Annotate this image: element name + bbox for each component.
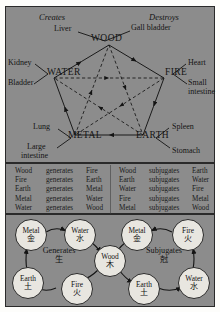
table-row: Earth subjugates Water (119, 175, 220, 184)
cell-subject: Wood (119, 167, 149, 175)
cell-subject: Metal (119, 204, 149, 212)
node-label-cn: 火 (73, 289, 81, 297)
node-label-cn: 金 (27, 235, 35, 243)
cycles-panel: Metal 金 Water 水 Fire 火 Earth 土 Wood 木 Me… (5, 214, 215, 307)
cell-subject: Water (119, 185, 149, 193)
node-label-cn: 木 (106, 261, 114, 269)
table-row: Water generates Wood (15, 204, 114, 213)
organ-label-large-intestine-line2: intestine (21, 152, 48, 160)
cycle-title-generates: Generates 生 (30, 246, 88, 264)
cell-verb: subjugates (149, 204, 192, 212)
table-row: Metal subjugates Wood (119, 204, 220, 213)
cell-verb: subjugates (149, 176, 192, 184)
cell-object: Earth (192, 167, 220, 175)
cell-subject: Fire (15, 176, 46, 184)
organ-label-gall-bladder: Gall bladder (131, 24, 171, 32)
wu-xing-figure: Creates Destroys (0, 0, 220, 312)
organ-label-heart: Heart (188, 59, 206, 67)
element-label-water: WATER (47, 68, 81, 78)
organ-label-liver: Liver (54, 25, 71, 33)
element-label-fire: FIRE (165, 68, 187, 78)
table-row: Earth generates Metal (15, 185, 114, 194)
organ-label-stomach: Stomach (172, 147, 200, 155)
node-label-cn: 水 (76, 235, 84, 243)
cell-verb: generates (46, 176, 86, 184)
cell-object: Fire (86, 167, 114, 175)
cell-subject: Earth (15, 185, 46, 193)
cycle-title-subjugates: Subjugates 尅 (132, 246, 196, 264)
cell-verb: generates (46, 167, 86, 175)
cell-object: Earth (86, 176, 114, 184)
subjugates-table: Wood subjugates Earth Earth subjugates W… (119, 166, 220, 213)
node-label-cn: 土 (140, 289, 148, 297)
organ-label-small-intestine-line2: intestine (188, 88, 215, 96)
element-label-metal: METAL (68, 131, 102, 141)
pentagram-svg (6, 7, 214, 162)
table-row: Metal generates Water (15, 194, 114, 203)
node-label-cn: 金 (133, 235, 141, 243)
cycle-node-water-right: Water 水 (178, 267, 210, 299)
table-row: Fire generates Earth (15, 175, 114, 184)
cell-verb: generates (46, 195, 86, 203)
cell-object: Water (192, 176, 220, 184)
cycle-node-earth-right: Earth 土 (128, 273, 160, 305)
cell-subject: Wood (15, 167, 46, 175)
element-label-earth: EARTH (136, 131, 169, 141)
cell-object: Fire (192, 185, 220, 193)
node-label-cn: 土 (24, 283, 32, 291)
table-row: Fire subjugates Metal (119, 194, 220, 203)
cell-verb: subjugates (149, 185, 192, 193)
cycle-title-cn: 尅 (132, 255, 196, 264)
table-row: Wood generates Fire (15, 166, 114, 175)
organ-label-bladder: Bladder (8, 79, 33, 87)
node-label-cn: 水 (190, 283, 198, 291)
organ-label-kidney: Kidney (8, 59, 32, 67)
table-row: Wood subjugates Earth (119, 166, 220, 175)
cycle-node-fire-left: Fire 火 (61, 273, 93, 305)
node-label-en: Fire (71, 281, 83, 288)
organ-label-spleen: Spleen (172, 123, 194, 131)
cycle-node-wood-center: Wood 木 (94, 245, 126, 277)
cell-verb: subjugates (149, 195, 192, 203)
cycle-node-earth-left: Earth 土 (12, 267, 44, 299)
cell-object: Wood (192, 204, 220, 212)
node-label-en: Fire (182, 227, 194, 234)
cell-subject: Earth (119, 176, 149, 184)
cell-object: Wood (86, 204, 114, 212)
cell-object: Water (86, 195, 114, 203)
element-label-wood: WOOD (91, 34, 122, 44)
cell-object: Metal (192, 195, 220, 203)
cell-verb: generates (46, 185, 86, 193)
cell-subject: Metal (15, 195, 46, 203)
organ-label-lung: Lung (33, 123, 50, 131)
node-label-cn: 火 (184, 235, 192, 243)
cell-subject: Water (15, 204, 46, 212)
pentagram-panel: Creates Destroys (5, 6, 215, 163)
generates-table: Wood generates Fire Fire generates Earth… (15, 166, 114, 213)
cell-subject: Fire (119, 195, 149, 203)
cycle-title-cn: 生 (30, 255, 88, 264)
cell-verb: generates (46, 204, 86, 212)
cell-object: Metal (86, 185, 114, 193)
cell-verb: subjugates (149, 167, 192, 175)
table-row: Water subjugates Fire (119, 185, 220, 194)
relations-tables-panel: Wood generates Fire Fire generates Earth… (5, 163, 215, 214)
